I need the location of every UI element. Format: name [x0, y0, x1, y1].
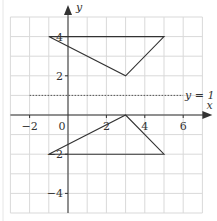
y-axis-label: y: [75, 1, 83, 14]
y-tick-label: 2: [56, 70, 63, 83]
y-tick-label: 4: [56, 31, 63, 44]
y-tick-label: −4: [47, 187, 63, 200]
x-tick-label: −2: [21, 120, 37, 133]
coordinate-diagram: 42−2−4−20246yxy = 1: [0, 0, 217, 221]
x-tick-label: 6: [180, 120, 187, 133]
y-axis-arrow-icon: [64, 5, 72, 15]
x-tick-label: 4: [141, 120, 148, 133]
mirror-line-label: y = 1: [184, 89, 214, 102]
x-tick-label: 2: [103, 120, 110, 133]
y-tick-label: −2: [47, 148, 63, 161]
labels: 42−2−4−20246yxy = 1: [21, 1, 214, 200]
x-axis-arrow-icon: [202, 111, 212, 119]
x-tick-label: 0: [59, 120, 66, 133]
